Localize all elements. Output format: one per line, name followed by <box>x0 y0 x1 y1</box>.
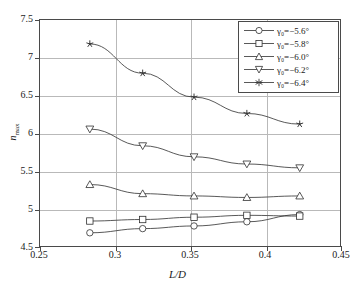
legend-item-gamma0-5-6[interactable]: γ₀=−5.6° <box>239 24 338 37</box>
x-tick-label: 0.45 <box>321 250 355 260</box>
legend: γ₀=−5.6° γ₀=−5.8° γ₀=−6.0° <box>238 21 339 93</box>
x-tick-label: 0.3 <box>95 250 135 260</box>
data-point-star <box>243 110 250 117</box>
data-point-square <box>139 216 145 222</box>
legend-marker-star-icon <box>244 77 274 88</box>
y-tick-label: 5.5 <box>0 166 33 176</box>
legend-marker-triangle-down-icon <box>244 64 274 75</box>
series-gamma0_-6.2 <box>86 126 304 172</box>
y-axis-title-sub: max <box>13 123 21 135</box>
data-point-circle <box>139 225 145 231</box>
series-line <box>90 129 300 168</box>
data-point-star <box>86 40 93 47</box>
x-tick-label: 0.25 <box>19 250 59 260</box>
data-point-star <box>191 94 198 101</box>
legend-label: γ₀=−5.6° <box>277 26 309 36</box>
data-point-circle <box>87 230 93 236</box>
data-point-square <box>87 218 93 224</box>
data-point-triangle-up <box>296 192 304 199</box>
legend-label: γ₀=−6.2° <box>277 65 309 75</box>
legend-label: γ₀=−6.4° <box>277 78 309 88</box>
y-axis-title: nmax <box>7 112 21 152</box>
series-gamma0_-6.0 <box>86 181 304 201</box>
data-point-star <box>139 70 146 77</box>
data-point-triangle-up <box>86 181 94 188</box>
legend-label: γ₀=−6.0° <box>277 52 309 62</box>
y-tick-label: 5 <box>0 204 33 214</box>
y-tick-label: 7.5 <box>0 14 33 24</box>
legend-marker-triangle-up-icon <box>244 51 274 62</box>
data-point-star <box>296 121 303 128</box>
x-tick-label: 0.35 <box>170 250 210 260</box>
legend-item-gamma0-6-2[interactable]: γ₀=−6.2° <box>239 63 338 76</box>
legend-label: γ₀=−5.8° <box>277 39 309 49</box>
legend-marker-circle-icon <box>244 25 274 36</box>
data-point-circle <box>244 219 250 225</box>
series-gamma0_-5.8 <box>87 212 303 224</box>
y-tick-label: 7 <box>0 52 33 62</box>
data-point-square <box>244 212 250 218</box>
data-point-circle <box>191 223 197 229</box>
y-axis-title-main: n <box>7 136 18 141</box>
data-point-square <box>297 213 303 219</box>
y-tick-label: 6.5 <box>0 90 33 100</box>
legend-item-gamma0-6-0[interactable]: γ₀=−6.0° <box>239 50 338 63</box>
legend-item-gamma0-6-4[interactable]: γ₀=−6.4° <box>239 76 338 89</box>
data-point-triangle-down <box>296 165 304 172</box>
chart-figure: 7.5 7 6.5 6 5.5 5 4.5 0.25 0.3 0.35 0.4 … <box>0 0 355 296</box>
x-tick-label: 0.4 <box>245 250 285 260</box>
legend-marker-square-icon <box>244 38 274 49</box>
x-axis-title: L/D <box>0 268 355 280</box>
legend-item-gamma0-5-8[interactable]: γ₀=−5.8° <box>239 37 338 50</box>
data-point-square <box>191 214 197 220</box>
